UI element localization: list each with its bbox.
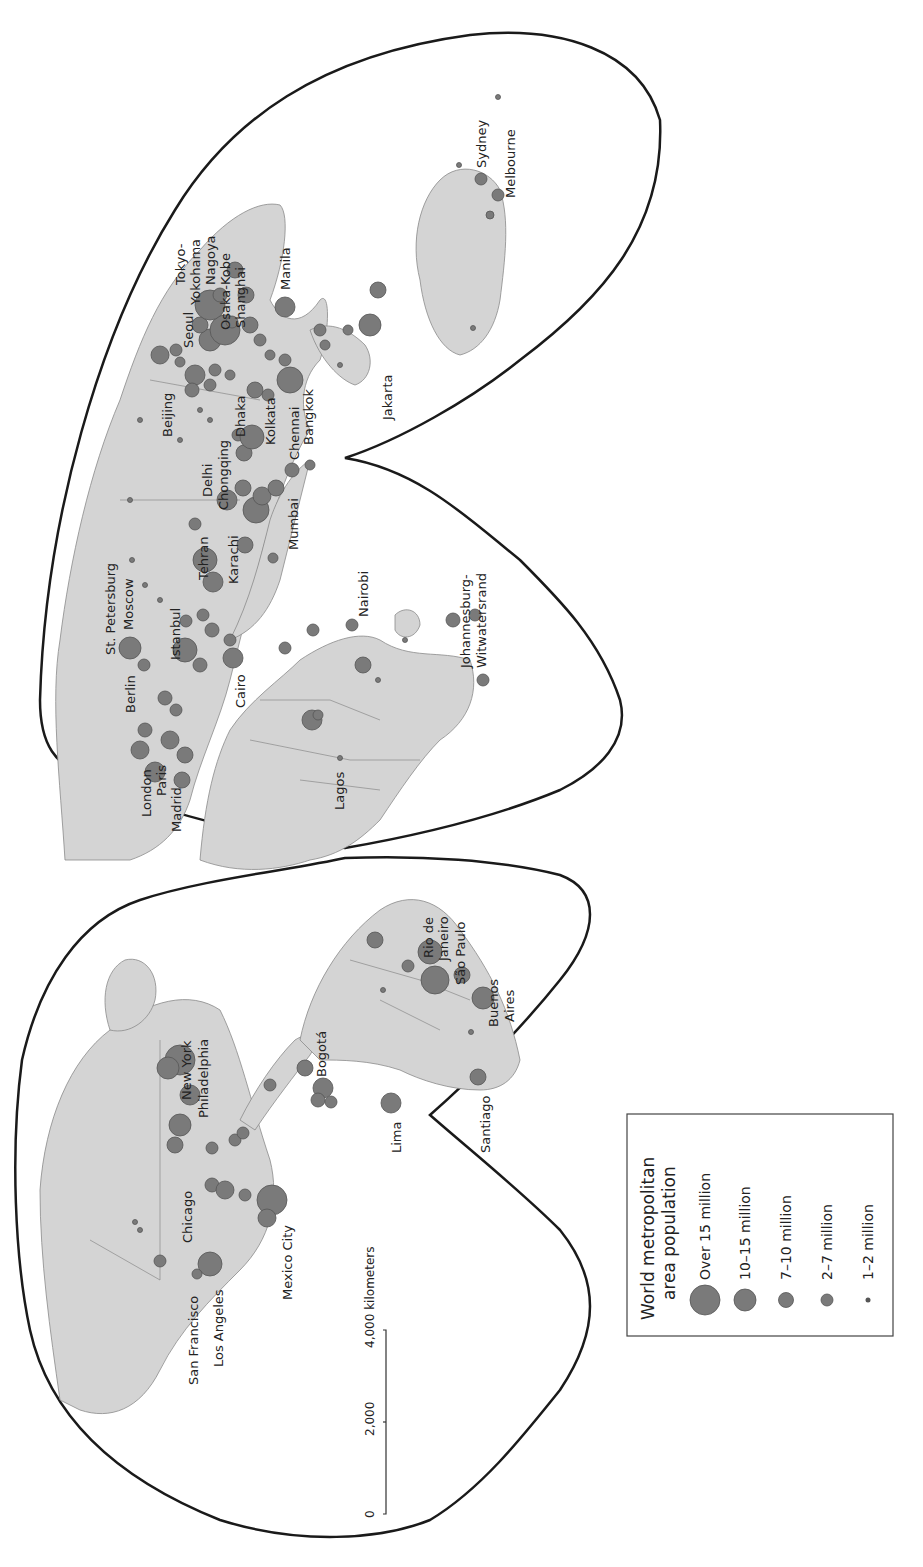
label-beijing: Beijing xyxy=(160,393,175,437)
legend-label-10-15m: 10–15 million xyxy=(737,1186,753,1280)
label-los-angeles: Los Angeles xyxy=(211,1289,226,1367)
legend-title-line1: World metropolitan xyxy=(638,1157,658,1320)
label-chongqing: Chongqing xyxy=(216,440,231,510)
label-bangkok: Bangkok xyxy=(301,389,316,445)
label-moscow: Moscow xyxy=(121,578,136,630)
label-cairo: Cairo xyxy=(233,674,248,708)
label-melbourne: Melbourne xyxy=(503,129,518,198)
legend-symbol-1-2m xyxy=(866,1298,871,1303)
label-santiago: Santiago xyxy=(478,1096,493,1153)
label-johannesburg-2: Witwatersrand xyxy=(474,573,489,668)
label-lagos: Lagos xyxy=(332,772,347,810)
legend: World metropolitan area population Over … xyxy=(627,1114,893,1336)
label-kolkata: Kolkata xyxy=(263,397,278,445)
label-dhaka: Dhaka xyxy=(233,396,248,437)
label-rio-1: Rio de xyxy=(421,917,436,958)
world-metro-population-map: San Francisco Los Angeles Chicago Mexico… xyxy=(0,0,923,1567)
legend-title-line2: area population xyxy=(659,1166,679,1300)
label-nairobi: Nairobi xyxy=(356,571,371,617)
label-seoul: Seoul xyxy=(181,312,196,348)
label-tokyo-2: Yokohama xyxy=(188,239,203,306)
label-osaka-kobe: Osaka-Kobe xyxy=(218,253,233,330)
label-san-francisco: San Francisco xyxy=(186,1296,201,1385)
scale-tick-0: 0 xyxy=(363,1510,377,1518)
label-buenos-aires-2: Aires xyxy=(502,989,517,1022)
label-buenos-aires-1: Buenos xyxy=(486,979,501,1027)
label-jakarta: Jakarta xyxy=(380,375,395,421)
label-philadelphia: Philadelphia xyxy=(196,1039,211,1118)
label-nagoya: Nagoya xyxy=(203,235,218,285)
label-berlin: Berlin xyxy=(123,675,138,713)
legend-label-1-2m: 1–2 million xyxy=(860,1204,876,1280)
label-chennai: Chennai xyxy=(287,407,302,460)
label-delhi: Delhi xyxy=(200,464,215,497)
legend-symbol-10-15m xyxy=(734,1289,756,1311)
label-johannesburg-1: Johannesburg- xyxy=(458,574,473,669)
label-st-petersburg: St. Petersburg xyxy=(103,563,118,655)
legend-symbol-2-7m xyxy=(821,1294,833,1306)
legend-symbol-7-10m xyxy=(779,1293,794,1308)
label-tehran: Tehran xyxy=(196,536,211,581)
label-karachi: Karachi xyxy=(226,535,241,584)
legend-label-2-7m: 2–7 million xyxy=(819,1204,835,1280)
label-lima: Lima xyxy=(389,1122,404,1153)
label-bogota: Bogotá xyxy=(314,1031,329,1077)
label-london: London xyxy=(139,769,154,817)
label-sydney: Sydney xyxy=(474,120,489,168)
legend-label-7-10m: 7–10 million xyxy=(778,1195,794,1280)
label-mexico-city: Mexico City xyxy=(280,1225,295,1300)
label-manila: Manila xyxy=(278,247,293,290)
label-sao-paulo: São Paulo xyxy=(453,922,468,985)
scale-tick-2000: 2,000 xyxy=(363,1402,377,1436)
legend-symbol-over-15m xyxy=(690,1285,720,1315)
label-chicago: Chicago xyxy=(180,1191,195,1243)
label-paris: Paris xyxy=(154,765,169,796)
label-madrid: Madrid xyxy=(169,787,184,832)
label-mumbai: Mumbai xyxy=(286,498,301,550)
label-tokyo-1: Tokyo- xyxy=(173,243,188,286)
scale-tick-4000: 4,000 kilometers xyxy=(363,1247,377,1348)
label-shanghai: Shanghai xyxy=(233,267,248,328)
label-new-york: New York xyxy=(179,1040,194,1100)
label-istanbul: Istanbul xyxy=(168,608,183,660)
legend-label-over-15m: Over 15 million xyxy=(697,1173,713,1280)
label-rio-2: Janeiro xyxy=(436,916,451,962)
